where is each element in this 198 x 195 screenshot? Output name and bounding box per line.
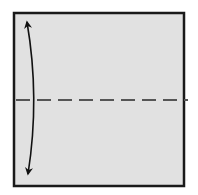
origami-diagram — [0, 0, 198, 195]
